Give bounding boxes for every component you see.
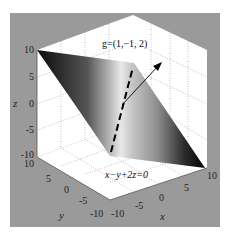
y-axis-label: y (58, 209, 64, 221)
vector-label: g=(1,−1, 2) (102, 38, 147, 50)
svg-text:10: 10 (24, 44, 34, 55)
svg-text:-5: -5 (26, 124, 34, 135)
figure: g=(1,−1, 2) x−y+2z=0 10 5 0 -5 -10 z 10 … (0, 0, 228, 234)
svg-text:0: 0 (29, 98, 34, 109)
svg-text:-5: -5 (135, 200, 143, 211)
x-axis-label: x (159, 210, 165, 222)
svg-text:5: 5 (29, 71, 34, 82)
svg-text:0: 0 (64, 184, 69, 195)
svg-text:-10: -10 (90, 208, 103, 219)
plane-equation-label: x−y+2z=0 (104, 169, 148, 180)
z-axis-label: z (12, 97, 18, 109)
svg-text:10: 10 (24, 158, 34, 169)
svg-text:-5: -5 (79, 195, 87, 206)
svg-text:5: 5 (46, 173, 51, 184)
svg-text:5: 5 (184, 182, 189, 193)
svg-text:0: 0 (159, 192, 164, 203)
svg-text:-10: -10 (111, 208, 124, 219)
svg-text:10: 10 (207, 170, 217, 181)
